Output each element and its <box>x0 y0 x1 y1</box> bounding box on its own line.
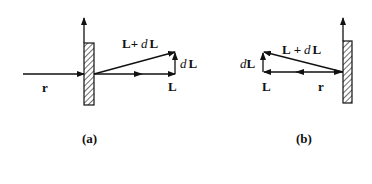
L-mid-arrowhead-icon <box>295 69 304 75</box>
L-plus-dL-label: L+dL <box>122 36 159 51</box>
sum-plus: + <box>294 42 301 57</box>
L-mid-arrowhead-icon <box>134 71 143 77</box>
dL-L: L <box>247 56 256 71</box>
angular-momentum-diagram: r L L+dL dL (a) r L L+dL dL (b) <box>0 0 372 184</box>
sum-L1: L <box>282 42 291 57</box>
r-label: r <box>318 79 324 94</box>
caption-a: (a) <box>82 131 97 146</box>
L-label: L <box>168 79 177 94</box>
panel-b: r L L+dL dL (b) <box>240 18 352 146</box>
dL-label: dL <box>180 56 198 71</box>
r-label: r <box>42 80 48 95</box>
dL-L: L <box>189 56 198 71</box>
L-plus-dL-label: L+dL <box>282 42 322 57</box>
L-label: L <box>262 79 271 94</box>
panel-a: r L L+dL dL (a) <box>23 18 198 146</box>
dL-d: d <box>180 56 187 71</box>
sum-L2: L <box>150 36 159 51</box>
hatched-plate <box>343 41 352 103</box>
L-plus-dL-vector-arrow <box>94 52 175 74</box>
dL-label: dL <box>240 56 256 71</box>
sum-d: d <box>141 36 148 51</box>
caption-b: (b) <box>296 131 312 146</box>
hatched-plate <box>84 43 94 105</box>
sum-d: d <box>304 42 311 57</box>
sum-L1: L <box>122 36 131 51</box>
sum-plus: + <box>131 36 138 51</box>
sum-L2: L <box>313 42 322 57</box>
